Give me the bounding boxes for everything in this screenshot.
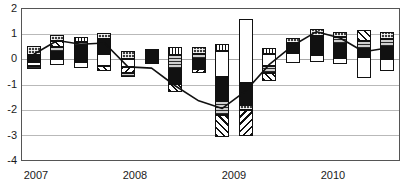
- bar-segment: [357, 41, 371, 49]
- bar-segment: [262, 73, 276, 81]
- bar-segment: [239, 19, 253, 83]
- bar-segment: [145, 49, 159, 62]
- bar-2010Q1: [310, 29, 324, 63]
- bar-segment: [357, 49, 371, 58]
- bar-segment: [333, 58, 347, 64]
- y-axis: 2 1 0 -1 -2 -3 -4: [0, 0, 17, 188]
- y-tick-label: 2: [0, 3, 17, 14]
- bar-2009Q3: [262, 48, 276, 81]
- bar-2009Q1: [215, 44, 229, 137]
- bar-segment: [286, 53, 300, 63]
- bar-segment: [262, 66, 276, 73]
- bar-2009Q2: [239, 19, 253, 136]
- bar-2008Q2: [145, 49, 159, 65]
- bar-segment: [286, 43, 300, 53]
- bar-segment: [121, 51, 135, 60]
- bar-2007Q1: [27, 46, 41, 69]
- bar-segment: [310, 29, 324, 36]
- bar-segment: [27, 46, 41, 55]
- bar-segment: [239, 110, 253, 136]
- bar-segment: [192, 59, 206, 69]
- bar-segment: [215, 77, 229, 101]
- bar-segment: [168, 69, 182, 84]
- bar-segment: [215, 51, 229, 77]
- bar-segment: [121, 59, 135, 67]
- bar-segment: [192, 47, 206, 54]
- y-tick-label: -2: [0, 104, 17, 115]
- x-tick-label: 2010: [311, 170, 355, 181]
- bar-2008Q3: [168, 47, 182, 92]
- bar-2010Q3: [357, 30, 371, 78]
- bar-segment: [333, 37, 347, 44]
- bar-2008Q4: [192, 47, 206, 73]
- bar-segment: [27, 55, 41, 63]
- bar-segment: [380, 32, 394, 40]
- bar-segment: [310, 55, 324, 63]
- bar-segment: [262, 54, 276, 65]
- x-tick-label: 2008: [113, 170, 157, 181]
- bar-segment: [357, 57, 371, 78]
- bar-segment: [380, 59, 394, 70]
- gridline: [22, 135, 399, 136]
- bar-segment: [97, 54, 111, 65]
- bar-segment: [215, 101, 229, 115]
- bar-segment: [239, 83, 253, 104]
- bar-segment: [50, 52, 64, 60]
- x-tick-label: 2007: [14, 170, 58, 181]
- gridline: [22, 110, 399, 111]
- y-tick-label: -1: [0, 79, 17, 90]
- y-tick-label: -4: [0, 155, 17, 166]
- bar-segment: [121, 73, 135, 77]
- bar-segment: [97, 39, 111, 54]
- bar-segment: [74, 62, 88, 68]
- bar-segment: [27, 66, 41, 69]
- bar-segment: [168, 47, 182, 55]
- bar-segment: [310, 36, 324, 55]
- bar-segment: [380, 39, 394, 47]
- bar-2007Q4: [97, 33, 111, 71]
- bar-segment: [168, 84, 182, 92]
- y-tick-label: 1: [0, 28, 17, 39]
- bar-segment: [168, 55, 182, 69]
- x-tick-label: 2009: [212, 170, 256, 181]
- bar-2007Q3: [74, 37, 88, 68]
- plot-area: [21, 8, 400, 161]
- chart-container: 2 1 0 -1 -2 -3 -4 2007 2008 2009 2010: [0, 0, 401, 188]
- y-tick-label: 0: [0, 53, 17, 64]
- bar-2010Q2: [333, 32, 347, 65]
- bar-segment: [357, 30, 371, 41]
- bar-segment: [50, 59, 64, 65]
- bar-2009Q4: [286, 38, 300, 63]
- bar-segment: [145, 62, 159, 65]
- bar-2008Q1: [121, 51, 135, 77]
- bar-segment: [215, 115, 229, 138]
- gridline: [22, 85, 399, 86]
- bar-segment: [74, 46, 88, 62]
- bar-segment: [192, 69, 206, 73]
- bar-2007Q2: [50, 35, 64, 64]
- bar-segment: [333, 44, 347, 58]
- bar-segment: [97, 66, 111, 71]
- bar-segment: [380, 47, 394, 59]
- y-tick-label: -3: [0, 130, 17, 141]
- bar-2010Q4: [380, 32, 394, 71]
